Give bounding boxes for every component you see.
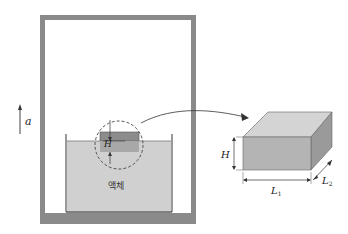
acceleration-arrow bbox=[18, 104, 22, 134]
block-height-label: H bbox=[220, 149, 230, 160]
block-length1-label: L1 bbox=[270, 185, 281, 197]
block-height-dimension bbox=[232, 137, 243, 170]
block-3d bbox=[243, 112, 332, 170]
liquid-label: 액체 bbox=[108, 180, 124, 191]
submerged-height-label: H bbox=[103, 139, 112, 149]
block-length1-dimension bbox=[243, 172, 311, 184]
block-front bbox=[243, 137, 311, 170]
acceleration-label: a bbox=[25, 115, 32, 128]
diagram-canvas: H 액체 a H L1 L2 bbox=[0, 0, 348, 234]
block-length2-label: L2 bbox=[321, 175, 333, 187]
